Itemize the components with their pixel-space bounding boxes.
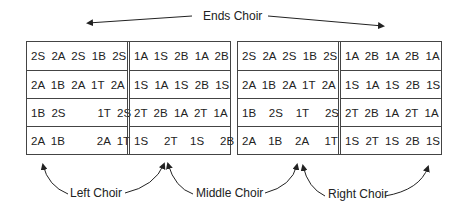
left-block: 2S 2A 2S 1B 2S 2A 1B 2A 1T 2A 1B 2S 1T 2… (26, 41, 231, 155)
cell: 2A 1B 2A 1T (238, 126, 338, 154)
left-block-col1: 2S 2A 2S 1B 2S 2A 1B 2A 1T 2A 1B 2S 1T 2… (27, 42, 127, 154)
cell: 2A 1B 2A 1T (27, 126, 127, 154)
cell: 1A 2B 1A 2B 1A (341, 42, 441, 70)
label-middle-choir: Middle Choir (196, 186, 263, 200)
left-block-col2: 1A 1S 2B 1A 2B 1S 1A 1S 2B 1S 2T 2B 1A 2… (127, 42, 230, 154)
cell: 2S 2A 2S 1B 2S (27, 42, 127, 70)
right-block: 2S 2A 2S 1B 2S 2A 1B 2A 1T 2A 1B 2S 1T 2… (237, 41, 442, 155)
label-left-choir: Left Choir (70, 186, 122, 200)
cell: 2S 2A 2S 1B 2S (238, 42, 338, 70)
cell: 1S 1A 1S 2B 1S (341, 70, 441, 98)
cell: 2T 2B 1A 2T 1A (341, 98, 441, 126)
label-ends-choir: Ends Choir (203, 9, 262, 23)
right-block-col1: 2S 2A 2S 1B 2S 2A 1B 2A 1T 2A 1B 2S 1T 2… (238, 42, 338, 154)
label-right-choir: Right Choir (328, 187, 388, 201)
cell: 2A 1B 2A 1T 2A (238, 70, 338, 98)
cell: 2A 1B 2A 1T 2A (27, 70, 127, 98)
cell: 1S 2T 1S 2B 1S (341, 126, 441, 154)
cell: 1A 1S 2B 1A 2B (130, 42, 230, 70)
cell: 1B 2S 1T 2S (238, 98, 338, 126)
right-block-col2: 1A 2B 1A 2B 1A 1S 1A 1S 2B 1S 2T 2B 1A 2… (338, 42, 441, 154)
cell: 1S 2T 1S 2B (130, 126, 230, 154)
cell: 2T 2B 1A 2T 1A (130, 98, 230, 126)
cell: 1B 2S 1T 2S (27, 98, 127, 126)
cell: 1S 1A 1S 2B 1S (130, 70, 230, 98)
